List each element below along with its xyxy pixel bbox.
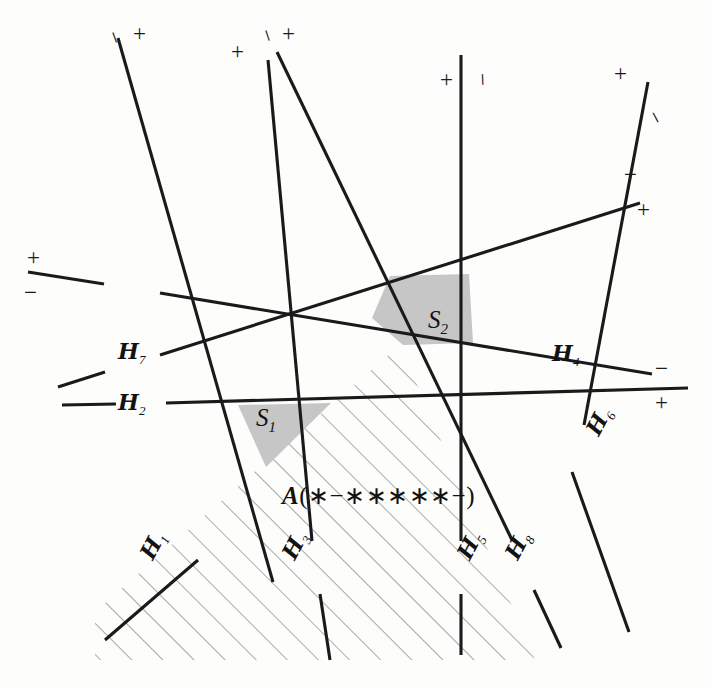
annotation-signs: ∗−∗∗∗∗∗− xyxy=(308,482,466,509)
region-letter: S xyxy=(256,404,269,431)
hyperplane-subscript: 4 xyxy=(573,354,580,369)
annotation-open-paren: ( xyxy=(299,482,308,509)
hyperplane-line-h1 xyxy=(118,38,273,582)
region-label-s2: S2 xyxy=(428,306,448,338)
sign-label-h5-minus: − xyxy=(471,73,494,87)
sign-label-h2-plus: + xyxy=(655,391,668,414)
sign-label-h4-plus: + xyxy=(27,246,40,269)
sign-label-h8-top-plus: + xyxy=(282,22,295,45)
annotation-variable: A xyxy=(282,482,299,509)
hyperplane-line-h2-main xyxy=(166,388,688,403)
sign-label-h5-plus: + xyxy=(440,68,453,91)
hyperplane-line-h6 xyxy=(584,82,648,425)
hyperplane-subscript: 7 xyxy=(139,352,146,367)
covector-annotation: A(∗−∗∗∗∗∗−) xyxy=(282,481,475,510)
sign-label-h1-top-plus: + xyxy=(133,22,146,45)
sign-label-h7-minus: − xyxy=(624,163,637,186)
hyperplane-line-h7-tail xyxy=(58,372,105,387)
sign-label-h7-plus: + xyxy=(637,198,650,221)
script-h-glyph: H xyxy=(552,340,573,366)
hyperplane-subscript: 2 xyxy=(139,403,146,418)
script-h-glyph: H xyxy=(118,389,139,415)
region-letter: S xyxy=(428,306,441,333)
sign-label-h2-minus: − xyxy=(655,357,668,380)
hyperplane-label-h7: H7 xyxy=(118,340,146,366)
arrangement-canvas xyxy=(0,0,711,687)
annotation-close-paren: ) xyxy=(466,482,475,509)
hyperplane-line-h6-tail xyxy=(572,472,629,632)
sign-label-h6-plus: + xyxy=(614,62,627,85)
sign-label-h4-minus: − xyxy=(24,281,37,304)
hyperplane-label-h2: H2 xyxy=(118,391,146,417)
region-subscript: 1 xyxy=(269,419,277,435)
hyperplane-line-h4 xyxy=(28,272,104,284)
hyperplane-arrangement-figure: H7 H2 H4 H6 H1 H3 H5 H8 − + + − + + − + … xyxy=(0,0,711,687)
hyperplane-line-h2 xyxy=(62,404,116,405)
region-subscript: 2 xyxy=(441,321,449,337)
region-label-s1: S1 xyxy=(256,404,276,436)
script-h-glyph: H xyxy=(118,338,139,364)
hyperplane-label-h4: H4 xyxy=(552,342,580,368)
sign-label-h3-top-plus: + xyxy=(231,40,244,63)
hyperplane-line-h8-tail xyxy=(534,590,561,648)
